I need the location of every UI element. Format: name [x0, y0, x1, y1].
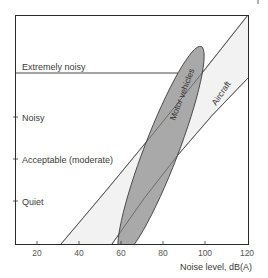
label-extremely-noisy: Extremely noisy — [22, 62, 86, 72]
top-mask — [0, 0, 267, 15]
label-noisy: Noisy — [22, 113, 45, 123]
x-tick-label: 120 — [240, 248, 254, 258]
x-tick-label: 60 — [116, 248, 126, 258]
x-tick-label: 100 — [198, 248, 212, 258]
label-acceptable: Acceptable (moderate) — [22, 155, 113, 165]
chart-canvas: Extremely noisy Noisy Acceptable (modera… — [0, 0, 267, 278]
x-tick-label: 80 — [158, 248, 168, 258]
right-mask — [249, 0, 268, 278]
x-tick-label: 40 — [74, 248, 84, 258]
x-axis-title: Noise level, dB(A) — [180, 262, 252, 272]
x-tick-label: 20 — [32, 248, 42, 258]
motor-vehicles-ellipse — [105, 40, 217, 261]
label-quiet: Quiet — [22, 197, 44, 207]
